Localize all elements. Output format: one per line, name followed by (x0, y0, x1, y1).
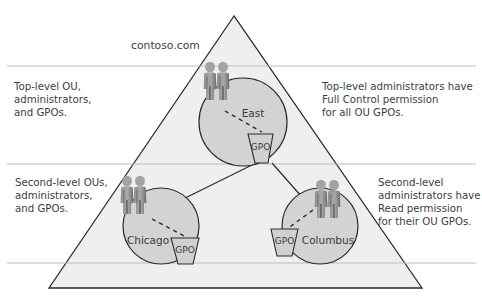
gpo-east-label: GPO (251, 142, 271, 152)
second-level-permission-note: Second-level administrators have Read pe… (378, 176, 480, 228)
ou-chicago-label: Chicago (127, 234, 169, 246)
domain-label: contoso.com (131, 39, 200, 52)
second-level-description: Second-level OUs, administrators, and GP… (15, 176, 108, 215)
top-level-permission-note: Top-level administrators have Full Contr… (322, 80, 473, 119)
ou-east-label: East (242, 107, 265, 119)
gpo-columbus-label: GPO (275, 236, 295, 246)
ou-delegation-diagram: GPO East GPO Chicago GPO Columbus (0, 0, 482, 300)
gpo-chicago-label: GPO (175, 245, 195, 255)
top-level-description: Top-level OU, administrators, and GPOs. (14, 80, 91, 119)
ou-columbus-label: Columbus (302, 234, 354, 246)
